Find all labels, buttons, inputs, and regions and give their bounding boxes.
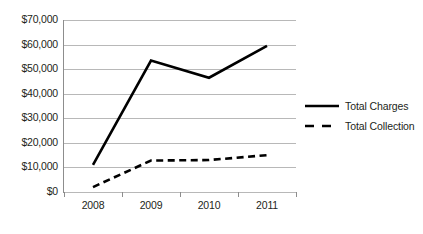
legend-item-total-charges: Total Charges — [305, 96, 423, 116]
x-axis-tick — [64, 192, 65, 197]
x-axis-tick-label: 2010 — [180, 199, 238, 211]
y-axis-tick-label: $30,000 — [0, 112, 58, 123]
legend-label-total-collection: Total Collection — [345, 120, 415, 132]
series-line-total-charges — [93, 46, 267, 165]
y-axis-tick-label: $10,000 — [0, 161, 58, 172]
x-axis-tick-label: 2011 — [238, 199, 296, 211]
x-axis-tick-label: 2009 — [122, 199, 180, 211]
series-line-total-collection — [93, 155, 267, 187]
y-axis-tick-label: $60,000 — [0, 39, 58, 50]
plot-area — [64, 20, 296, 192]
legend-item-total-collection: Total Collection — [305, 116, 423, 136]
chart-legend: Total Charges Total Collection — [305, 96, 423, 136]
x-axis-tick — [238, 192, 239, 197]
y-axis-tick-label: $70,000 — [0, 14, 58, 25]
solid-line-icon — [305, 101, 339, 111]
caption-cut-off — [8, 227, 415, 234]
x-axis-tick-label: 2008 — [64, 199, 122, 211]
series-layer — [64, 20, 296, 192]
y-axis-tick-label: $40,000 — [0, 88, 58, 99]
line-chart: $0$10,000$20,000$30,000$40,000$50,000$60… — [0, 0, 423, 234]
x-axis-ticks — [64, 192, 296, 197]
y-axis-tick-label: $20,000 — [0, 137, 58, 148]
x-axis-tick — [296, 192, 297, 197]
legend-label-total-charges: Total Charges — [345, 100, 408, 112]
y-axis-tick-label: $0 — [0, 186, 58, 197]
x-axis-tick — [180, 192, 181, 197]
x-axis-tick — [122, 192, 123, 197]
x-axis-labels: 2008200920102011 — [0, 199, 423, 215]
y-axis-tick-label: $50,000 — [0, 63, 58, 74]
dashed-line-icon — [305, 121, 339, 131]
